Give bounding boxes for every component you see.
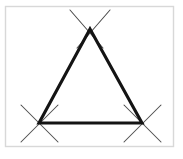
geometric-construction-figure: [0, 0, 183, 159]
figure-container: [0, 0, 183, 159]
